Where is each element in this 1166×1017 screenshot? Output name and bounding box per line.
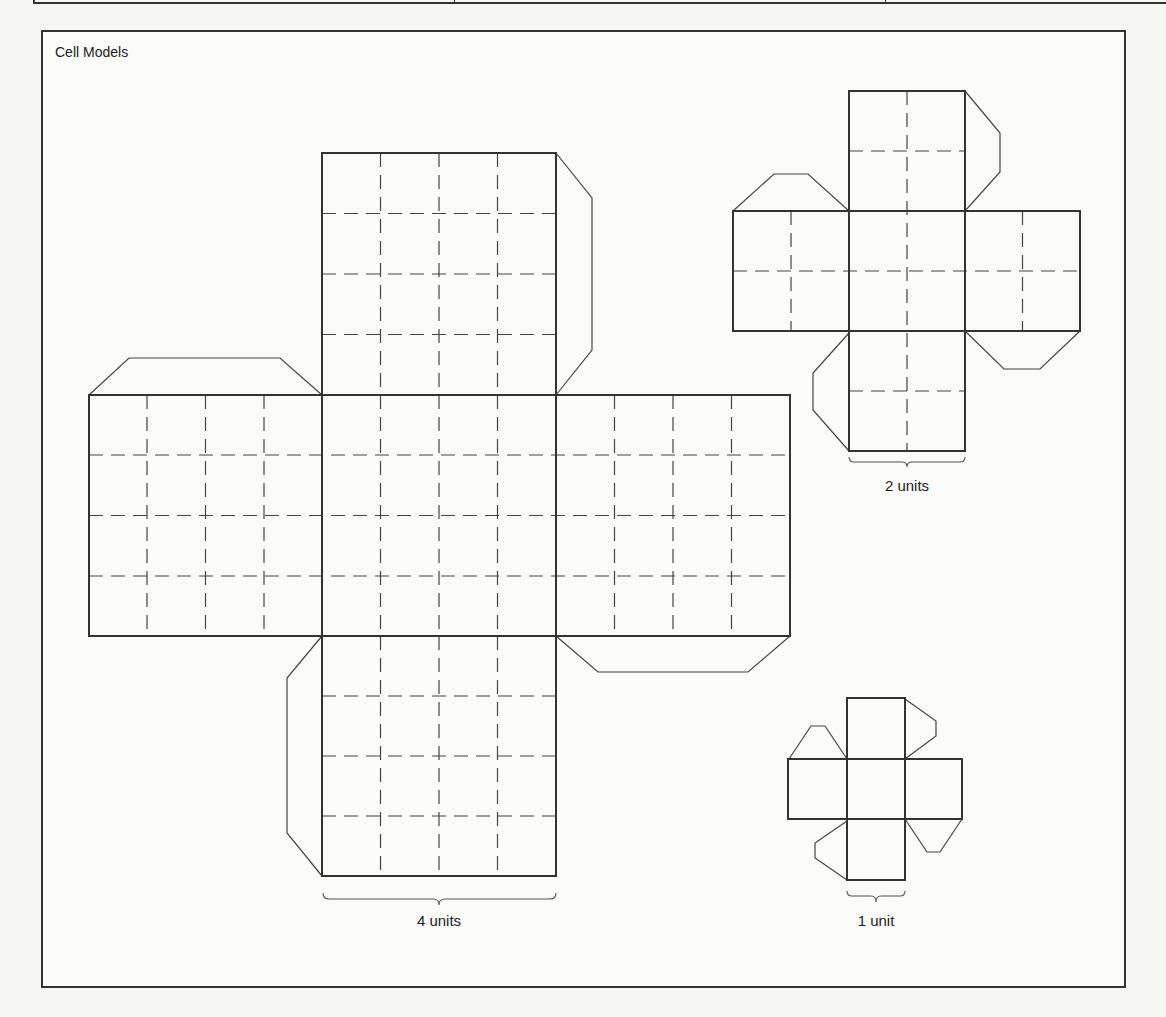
tab-right-face-bottom <box>556 636 790 672</box>
large-cube-net: 4 units <box>89 153 790 929</box>
large-net-grid <box>89 153 790 876</box>
tab-left-face-top <box>733 174 849 211</box>
dimension-brace <box>323 893 556 905</box>
tab-left-face-top <box>89 358 322 395</box>
tab-bottom-face-left <box>287 636 322 876</box>
tab-top-face-right <box>905 699 936 759</box>
cube-nets-diagram: 4 units 2 units <box>0 0 1166 1017</box>
face-top <box>847 698 905 759</box>
medium-net-grid <box>733 91 1080 451</box>
face-left <box>788 759 847 819</box>
medium-net-label: 2 units <box>885 477 929 494</box>
dimension-brace <box>847 891 905 902</box>
tab-right-face-bottom <box>905 819 962 852</box>
tab-bottom-face-left <box>813 333 849 451</box>
tab-bottom-face-left <box>815 821 847 880</box>
tab-top-face-right <box>556 153 592 395</box>
tab-left-face-top <box>789 726 847 759</box>
medium-cube-net: 2 units <box>733 91 1080 494</box>
dimension-brace <box>849 457 965 467</box>
face-bottom <box>847 819 905 880</box>
face-right <box>905 759 962 819</box>
small-net-label: 1 unit <box>858 912 896 929</box>
small-cube-net: 1 unit <box>788 698 962 929</box>
tab-right-face-bottom <box>965 331 1080 369</box>
tab-top-face-right <box>965 91 1000 211</box>
large-net-label: 4 units <box>417 912 461 929</box>
face-center <box>847 759 905 819</box>
